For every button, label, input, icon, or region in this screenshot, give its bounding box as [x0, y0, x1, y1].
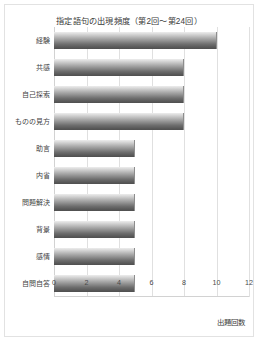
bar-row: 自己探索: [54, 86, 249, 102]
bar: [54, 113, 184, 129]
bar: [54, 140, 135, 156]
bar-row: ものの見方: [54, 113, 249, 129]
category-label: 自己探索: [22, 89, 50, 99]
bar: [54, 167, 135, 183]
bar: [54, 275, 135, 291]
bar: [54, 86, 184, 102]
x-tick-label: 2: [85, 278, 89, 287]
x-tick-label: 8: [182, 278, 186, 287]
x-tick-label: 10: [213, 278, 221, 287]
bar: [54, 221, 135, 237]
bar: [54, 248, 135, 264]
chart-title: 指定語句の出現頻度（第2回〜第24回）: [5, 14, 253, 26]
category-label: 問題解決: [22, 197, 50, 207]
bar: [54, 32, 217, 48]
bars-layer: 経験共感自己探索ものの見方助言内省問題解決背景感情自問自答: [54, 27, 249, 297]
bar-row: 問題解決: [54, 194, 249, 210]
category-label: 経験: [36, 35, 50, 45]
category-label: 内省: [36, 170, 50, 180]
x-axis-title: 出題回数: [217, 316, 245, 327]
bar: [54, 59, 184, 75]
category-label: 共感: [36, 62, 50, 72]
category-label: 自問自答: [22, 278, 50, 288]
bar: [54, 194, 135, 210]
gridline-12: [249, 27, 250, 297]
category-label: 感情: [36, 251, 50, 261]
bar-row: 内省: [54, 167, 249, 183]
bar-row: 背景: [54, 221, 249, 237]
x-tick-label: 4: [117, 278, 121, 287]
bar-row: 感情: [54, 248, 249, 264]
bar-row: 助言: [54, 140, 249, 156]
category-label: 助言: [36, 143, 50, 153]
bar-row: 経験: [54, 32, 249, 48]
chart-frame: 指定語句の出現頻度（第2回〜第24回） 経験共感自己探索ものの見方助言内省問題解…: [4, 4, 254, 337]
plot-area: 経験共感自己探索ものの見方助言内省問題解決背景感情自問自答: [54, 27, 249, 297]
x-tick-label: 6: [150, 278, 154, 287]
x-tick-label: 0: [52, 278, 56, 287]
x-tick-label: 12: [245, 278, 253, 287]
category-label: ものの見方: [15, 116, 50, 126]
bar-row: 共感: [54, 59, 249, 75]
x-axis-line: [54, 296, 249, 297]
category-label: 背景: [36, 224, 50, 234]
